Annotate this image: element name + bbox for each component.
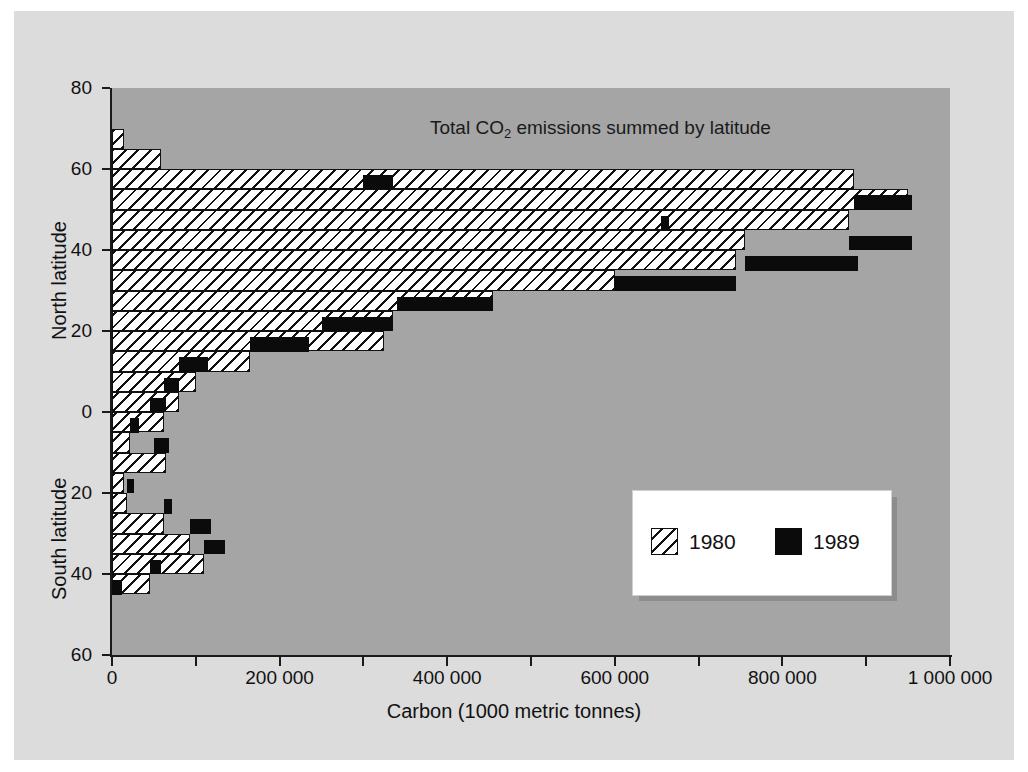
legend-entry-1989[interactable]: 1989	[775, 528, 860, 555]
bar-1980	[112, 513, 164, 533]
x-tick-label: 800 000	[712, 668, 852, 687]
x-axis-title: Carbon (1000 metric tonnes)	[0, 700, 1028, 723]
y-tick-80	[102, 87, 110, 89]
x-tick-1000000	[949, 657, 951, 666]
x-tick-700000	[698, 657, 700, 666]
y-tick-label: 60	[52, 645, 92, 664]
legend-label-1989: 1989	[813, 530, 860, 554]
bar-1980	[112, 250, 736, 270]
y-tick-40	[102, 573, 110, 575]
x-tick-800000	[781, 657, 783, 666]
x-tick-900000	[865, 657, 867, 666]
legend-swatch-1980-icon	[651, 528, 678, 555]
bar-1980	[112, 189, 908, 209]
bar-1980	[112, 270, 615, 290]
bar-1989	[363, 175, 392, 190]
x-tick-label: 200 000	[210, 668, 350, 687]
bar-1980	[112, 331, 384, 351]
bar-1980	[112, 210, 849, 230]
bar-1989	[164, 378, 179, 393]
bar-1989	[615, 276, 737, 291]
legend-entry-1980[interactable]: 1980	[651, 528, 736, 555]
bar-1980	[112, 149, 161, 169]
x-tick-label: 1 000 000	[880, 668, 1020, 687]
chart-title-prefix: Total CO	[430, 117, 504, 138]
y-tick-0	[102, 411, 110, 413]
chart-title: Total CO2 emissions summed by latitude	[430, 117, 771, 139]
bar-1980	[112, 473, 124, 493]
bar-1980	[112, 372, 196, 392]
legend-label-1980: 1980	[689, 530, 736, 554]
x-tick-label: 400 000	[377, 668, 517, 687]
bar-1989	[250, 337, 309, 352]
y-tick-label: 0	[52, 402, 92, 421]
bar-1989	[179, 357, 208, 372]
bar-1989	[164, 499, 172, 514]
bar-1989	[112, 580, 122, 595]
legend-swatch-1989-icon	[775, 528, 802, 555]
figure-root: 806040200204060 0200 000400 000600 00080…	[0, 0, 1028, 772]
bar-1989	[854, 195, 913, 210]
y-tick-40	[102, 249, 110, 251]
y-tick-label: 60	[52, 159, 92, 178]
bar-1989	[397, 297, 493, 312]
bar-1980	[112, 230, 745, 250]
bar-1989	[661, 216, 669, 231]
x-tick-300000	[362, 657, 364, 666]
bar-1989	[150, 560, 161, 575]
bar-1989	[130, 418, 138, 433]
chart-title-subscript: 2	[504, 126, 511, 141]
bar-1980	[112, 129, 124, 149]
y-tick-label: 80	[52, 78, 92, 97]
bar-1989	[849, 236, 912, 251]
bar-1989	[154, 438, 169, 453]
chart-title-suffix: emissions summed by latitude	[511, 117, 771, 138]
bar-1989	[322, 317, 393, 332]
y-tick-60	[102, 654, 110, 656]
bar-1989	[190, 519, 211, 534]
y-axis-title-south: South latitude	[48, 478, 71, 600]
bar-1989	[150, 398, 167, 413]
x-tick-100000	[195, 657, 197, 666]
bar-1980	[112, 493, 127, 513]
bar-1980	[112, 392, 179, 412]
bar-1980	[112, 534, 190, 554]
x-tick-400000	[446, 657, 448, 666]
bar-1980	[112, 169, 854, 189]
x-tick-label: 600 000	[545, 668, 685, 687]
x-tick-600000	[614, 657, 616, 666]
x-tick-500000	[530, 657, 532, 666]
bar-1989	[204, 540, 225, 555]
x-tick-label: 0	[42, 668, 182, 687]
bar-1980	[112, 432, 130, 452]
y-tick-60	[102, 168, 110, 170]
x-tick-0	[111, 657, 113, 666]
bar-1980	[112, 453, 166, 473]
bar-1989	[127, 479, 134, 494]
y-axis-title-north: North latitude	[48, 221, 71, 340]
x-tick-200000	[279, 657, 281, 666]
y-tick-20	[102, 330, 110, 332]
bar-1989	[745, 256, 858, 271]
y-tick-20	[102, 492, 110, 494]
